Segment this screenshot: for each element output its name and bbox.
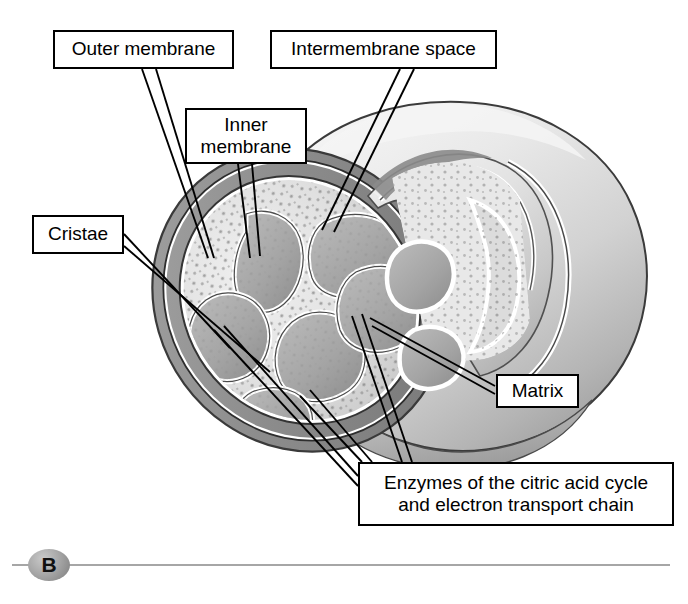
figure-panel: Outer membrane Intermembrane space Inner… <box>0 0 688 604</box>
panel-letter-marker: B <box>28 549 70 581</box>
label-enzymes: Enzymes of the citric acid cycle and ele… <box>358 462 674 526</box>
label-matrix: Matrix <box>496 374 579 408</box>
label-inner-membrane: Inner membrane <box>185 108 307 164</box>
label-intermembrane-space: Intermembrane space <box>270 30 497 69</box>
label-cristae: Cristae <box>32 215 124 254</box>
label-outer-membrane: Outer membrane <box>53 30 234 69</box>
panel-rule <box>12 564 670 566</box>
